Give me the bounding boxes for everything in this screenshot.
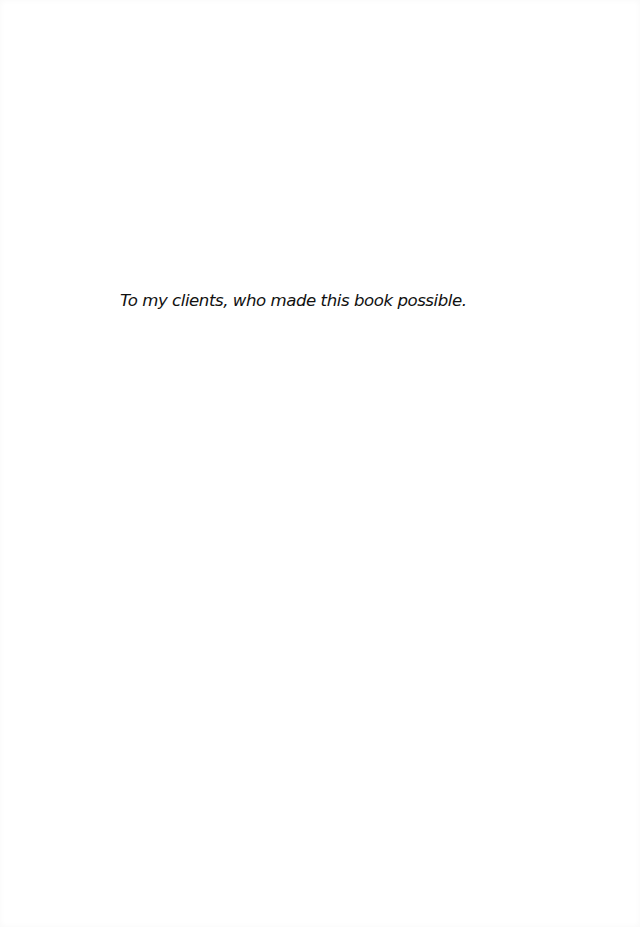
dedication-text: To my clients, who made this book possib… [120, 291, 467, 311]
book-page: To my clients, who made this book possib… [0, 0, 640, 927]
